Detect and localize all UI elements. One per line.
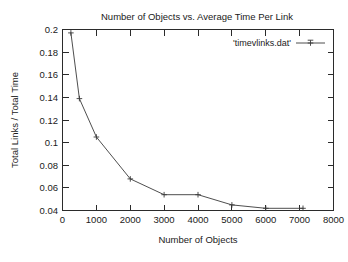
y-tick-label: 0.1 <box>45 137 58 148</box>
chart-title: Number of Objects vs. Average Time Per L… <box>101 11 293 22</box>
x-tick-label: 8000 <box>323 214 344 225</box>
y-tick-group: 0.12 <box>40 115 334 126</box>
series-line-path <box>71 33 303 208</box>
x-tick-group: 7000 <box>289 30 310 226</box>
line-chart: Number of Objects vs. Average Time Per L… <box>0 0 348 262</box>
x-tick-label: 2000 <box>120 214 141 225</box>
data-point-markers <box>68 30 306 211</box>
y-tick-label: 0.08 <box>40 160 59 171</box>
y-tick-label: 0.2 <box>45 24 58 35</box>
y-tick-group: 0.16 <box>40 69 334 80</box>
y-tick-group: 0.06 <box>40 182 334 193</box>
x-tick-label: 1000 <box>86 214 107 225</box>
y-tick-label: 0.04 <box>40 205 59 216</box>
x-tick-group: 1000 <box>86 30 107 226</box>
x-tick-label: 7000 <box>289 214 310 225</box>
x-tick-label: 4000 <box>187 214 208 225</box>
y-tick-label: 0.06 <box>40 182 59 193</box>
y-tick-group: 0.08 <box>40 160 334 171</box>
y-tick-group: 0.1 <box>45 137 334 148</box>
y-tick-group: 0.18 <box>40 47 334 58</box>
plot-frame <box>63 30 334 211</box>
series-timevlinks <box>68 30 306 211</box>
x-tick-group: 2000 <box>120 30 141 226</box>
y-tick-label: 0.12 <box>40 115 59 126</box>
x-tick-group: 5000 <box>221 30 242 226</box>
x-tick-label: 5000 <box>221 214 242 225</box>
y-axis-title: Total Links / Total Time <box>9 72 20 168</box>
x-tick-group: 6000 <box>255 30 276 226</box>
chart-legend: 'timevlinks.dat' <box>233 38 325 48</box>
chart-container: Number of Objects vs. Average Time Per L… <box>0 0 348 262</box>
legend-entry-label: 'timevlinks.dat' <box>233 38 291 48</box>
x-tick-label: 6000 <box>255 214 276 225</box>
y-tick-group: 0.14 <box>40 92 334 103</box>
legend-sample-line <box>296 40 325 46</box>
y-tick-label: 0.16 <box>40 69 59 80</box>
y-axis: 0.04 0.06 0.08 0.1 0.12 <box>40 24 334 216</box>
x-tick-label: 0 <box>60 214 65 225</box>
x-axis-title: Number of Objects <box>158 234 237 245</box>
y-tick-label: 0.14 <box>40 92 59 103</box>
y-tick-label: 0.18 <box>40 47 59 58</box>
x-tick-label: 3000 <box>154 214 175 225</box>
